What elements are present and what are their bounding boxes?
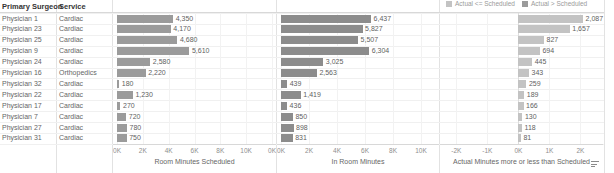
surgeon-name-cell[interactable]: Physician 7 [2, 112, 38, 122]
bar-value-label: 439 [290, 79, 302, 89]
legend-label: Actual > Scheduled [531, 0, 587, 8]
bar-value-label: 750 [129, 133, 141, 143]
legend-swatch-icon [446, 1, 452, 7]
bar-variance[interactable] [518, 15, 583, 23]
bar-scheduled[interactable] [117, 25, 171, 33]
axis-tick-label: 6K [191, 146, 199, 155]
bar-variance[interactable] [518, 36, 544, 44]
bar-scheduled[interactable] [117, 36, 177, 44]
surgeon-name-cell[interactable]: Physician 16 [2, 68, 42, 78]
surgeon-name-cell[interactable]: Physician 17 [2, 101, 42, 111]
axis-title[interactable]: Actual Minutes more or less than Schedul… [440, 158, 603, 165]
surgeon-name-cell[interactable]: Physician 25 [2, 35, 42, 45]
bar-variance[interactable] [518, 80, 526, 88]
table-row: 827 [440, 35, 603, 45]
axis-tick-label: 10K [415, 146, 427, 155]
header-service[interactable]: Service [59, 1, 86, 12]
service-cell[interactable]: Cardiac [59, 133, 83, 143]
bar-in-room[interactable] [281, 134, 293, 142]
bar-in-room[interactable] [281, 91, 301, 99]
bar-variance[interactable] [518, 25, 569, 33]
bar-value-label: 81 [523, 133, 531, 143]
service-cell[interactable]: Cardiac [59, 90, 83, 100]
surgeon-name-cell[interactable]: Physician 24 [2, 57, 42, 67]
axis-tick-label: 0K [268, 146, 276, 155]
bar-in-room[interactable] [281, 15, 371, 23]
surgeon-name-cell[interactable]: Physician 27 [2, 123, 42, 133]
bar-scheduled[interactable] [117, 58, 150, 66]
table-row: 270 [113, 101, 276, 111]
service-cell[interactable]: Cardiac [59, 24, 83, 34]
bar-value-label: 259 [529, 79, 541, 89]
service-cell[interactable]: Cardiac [59, 101, 83, 111]
service-cell[interactable]: Cardiac [59, 57, 83, 67]
axis-title[interactable]: In Room Minutes [277, 158, 439, 165]
service-cell[interactable]: Cardiac [59, 35, 83, 45]
table-row: 166 [440, 101, 603, 111]
bar-variance[interactable] [518, 124, 522, 132]
surgeon-name-cell[interactable]: Physician 1 [2, 14, 38, 24]
surgeon-name-cell[interactable]: Physician 32 [2, 79, 42, 89]
bar-in-room[interactable] [281, 36, 358, 44]
bar-variance[interactable] [518, 102, 523, 110]
bar-variance[interactable] [518, 134, 521, 142]
bar-scheduled[interactable] [117, 113, 126, 121]
bar-variance[interactable] [518, 69, 529, 77]
service-cell[interactable]: Cardiac [59, 112, 83, 122]
table-row: 180 [113, 79, 276, 89]
service-cell[interactable]: Cardiac [59, 14, 83, 24]
sort-icon[interactable] [591, 160, 599, 168]
legend-item-1[interactable]: Actual > Scheduled [522, 0, 587, 8]
bar-in-room[interactable] [281, 47, 369, 55]
legend-item-0[interactable]: Actual <= Scheduled [446, 0, 515, 8]
bar-scheduled[interactable] [117, 47, 189, 55]
bar-scheduled[interactable] [117, 80, 119, 88]
bar-scheduled[interactable] [117, 15, 173, 23]
table-row: 439 [277, 79, 439, 89]
axis-tick-label: -2K [451, 146, 461, 155]
axis-tick-label: 2K [305, 146, 313, 155]
table-row: 6,304 [277, 46, 439, 56]
axis-tick-label: 8K [389, 146, 397, 155]
service-cell[interactable]: Cardiac [59, 79, 83, 89]
service-cell[interactable]: Cardiac [59, 46, 83, 56]
axis-tick-label: 0K [277, 146, 285, 155]
bar-scheduled[interactable] [117, 124, 127, 132]
bar-scheduled[interactable] [117, 69, 146, 77]
surgeon-name-cell[interactable]: Physician 9 [2, 46, 38, 56]
table-row: 2,563 [277, 68, 439, 78]
bar-value-label: 2,580 [153, 57, 171, 67]
bar-value-label: 831 [295, 133, 307, 143]
bar-scheduled[interactable] [117, 91, 133, 99]
bar-variance[interactable] [518, 47, 540, 55]
bar-in-room[interactable] [281, 124, 294, 132]
surgeon-name-cell[interactable]: Physician 31 [2, 133, 42, 143]
bar-in-room[interactable] [281, 69, 317, 77]
table-row: 3,025 [277, 57, 439, 67]
bar-in-room[interactable] [281, 102, 287, 110]
bar-in-room[interactable] [281, 25, 363, 33]
service-cell[interactable]: Orthopedics [59, 68, 97, 78]
table-row: 850 [277, 112, 439, 122]
axis-title[interactable]: Room Minutes Scheduled [113, 158, 276, 165]
service-cell[interactable]: Cardiac [59, 123, 83, 133]
table-row: 1,657 [440, 24, 603, 34]
axis-rule [440, 144, 603, 145]
bar-in-room[interactable] [281, 58, 323, 66]
bar-value-label: 4,680 [180, 35, 198, 45]
bar-scheduled[interactable] [117, 134, 127, 142]
axis-rule [113, 144, 276, 145]
bar-variance[interactable] [518, 58, 532, 66]
bar-variance[interactable] [518, 91, 524, 99]
bar-value-label: 2,563 [319, 68, 337, 78]
bar-value-label: 1,657 [572, 24, 590, 34]
bar-in-room[interactable] [281, 80, 287, 88]
surgeon-name-cell[interactable]: Physician 23 [2, 24, 42, 34]
bar-scheduled[interactable] [117, 102, 120, 110]
table-row: 118 [440, 123, 603, 133]
bar-in-room[interactable] [281, 113, 293, 121]
bar-variance[interactable] [518, 113, 522, 121]
table-row: 2,087 [440, 14, 603, 24]
surgeon-name-cell[interactable]: Physician 22 [2, 90, 42, 100]
header-primary-surgeon[interactable]: Primary Surgeon [2, 1, 62, 12]
